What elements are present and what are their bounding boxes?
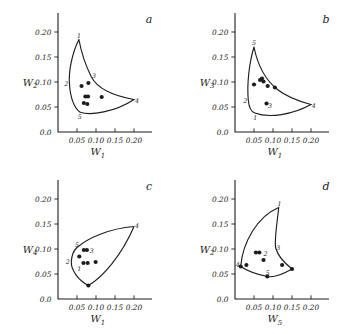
data-point <box>244 263 248 267</box>
data-point <box>252 82 256 86</box>
y-tick-label: 0.15 <box>212 53 229 62</box>
panel-a-chart: 0.050.100.150.200.050.100.150.200.0W2W1a… <box>0 0 177 167</box>
data-point <box>77 254 81 258</box>
panel-b-chart: 0.050.100.150.200.050.100.150.200.0W3W1b… <box>177 0 354 167</box>
x-tick-label: 0.10 <box>88 303 105 312</box>
x-tick-label: 0.05 <box>69 136 86 145</box>
x-axis-label: W1 <box>91 146 106 160</box>
panel-a: 0.050.100.150.200.050.100.150.200.0W2W1a… <box>0 0 177 167</box>
data-point <box>257 250 261 254</box>
x-axis-label: W1 <box>91 313 106 327</box>
x-tick-label: 0.05 <box>69 303 86 312</box>
vertex-label: 5 <box>78 113 82 120</box>
vertex-label: 2 <box>242 97 247 104</box>
panel-d-chart: 0.050.100.150.200.050.100.150.200.0W2W5d… <box>177 167 354 334</box>
panel-b: 0.050.100.150.200.050.100.150.200.0W3W1b… <box>177 0 354 167</box>
y-tick-label: 0.10 <box>212 245 229 254</box>
boundary-curve <box>248 47 311 115</box>
x-tick-label: 0.20 <box>303 136 320 145</box>
origin-tick-label: 0.0 <box>40 295 52 304</box>
data-point <box>273 85 277 89</box>
vertex-label: 5 <box>266 269 270 276</box>
y-tick-label: 0.15 <box>212 220 229 229</box>
boundary-curve <box>69 40 134 114</box>
vertex-label: 5 <box>75 241 79 248</box>
y-tick-label: 0.10 <box>212 78 229 87</box>
origin-tick-label: 0.0 <box>217 295 229 304</box>
y-tick-label: 0.05 <box>212 270 229 279</box>
data-point <box>261 258 265 262</box>
y-tick-label: 0.15 <box>35 53 52 62</box>
vertex-label: 2 <box>65 258 70 265</box>
data-point <box>86 261 90 265</box>
data-point <box>290 267 294 271</box>
data-point <box>86 81 90 85</box>
panel-letter: a <box>146 13 153 26</box>
origin-tick-label: 0.0 <box>40 128 52 137</box>
x-tick-label: 0.10 <box>265 136 282 145</box>
panel-c: 0.050.100.150.200.050.100.150.200.0W4W1c… <box>0 167 177 334</box>
data-point <box>100 95 104 99</box>
vertex-label: 3 <box>276 244 280 251</box>
vertex-label: 4 <box>134 222 139 229</box>
vertex-label: 3 <box>92 72 96 79</box>
vertex-label: 2 <box>63 80 68 87</box>
data-point <box>81 261 85 265</box>
x-tick-label: 0.15 <box>107 303 124 312</box>
vertex-label: 1 <box>77 32 81 39</box>
y-tick-label: 0.05 <box>35 270 52 279</box>
data-point <box>280 263 284 267</box>
x-tick-label: 0.20 <box>303 303 320 312</box>
vertex-label: 4 <box>235 261 240 268</box>
vertex-label: 1 <box>253 114 257 121</box>
panel-letter: b <box>322 13 329 26</box>
axes <box>58 13 152 132</box>
data-point <box>266 84 270 88</box>
boundary-curve <box>241 208 292 277</box>
vertex-label: 4 <box>311 102 316 109</box>
x-tick-label: 0.15 <box>284 136 301 145</box>
x-tick-label: 0.05 <box>246 303 263 312</box>
y-tick-label: 0.10 <box>35 245 52 254</box>
y-tick-label: 0.20 <box>212 195 229 204</box>
vertex-label: 2 <box>262 250 267 257</box>
panel-letter: c <box>146 180 152 193</box>
vertex-label: 3 <box>268 102 272 109</box>
y-tick-label: 0.05 <box>212 103 229 112</box>
vertex-label: 5 <box>252 39 256 46</box>
vertex-label: 1 <box>277 200 281 207</box>
vertex-label: 1 <box>77 265 81 272</box>
origin-tick-label: 0.0 <box>217 128 229 137</box>
panel-c-chart: 0.050.100.150.200.050.100.150.200.0W4W1c… <box>0 167 177 334</box>
vertex-label: 3 <box>90 247 94 254</box>
x-tick-label: 0.10 <box>265 303 282 312</box>
panel-letter: d <box>322 180 329 193</box>
axes <box>58 180 152 299</box>
data-point <box>261 79 265 83</box>
y-tick-label: 0.20 <box>35 195 52 204</box>
vertex-label: 4 <box>134 97 139 104</box>
x-tick-label: 0.10 <box>88 136 105 145</box>
data-point <box>85 102 89 106</box>
x-axis-label: W1 <box>268 146 283 160</box>
data-point <box>86 94 90 98</box>
y-tick-label: 0.20 <box>212 28 229 37</box>
y-tick-label: 0.10 <box>35 78 52 87</box>
panel-d: 0.050.100.150.200.050.100.150.200.0W2W5d… <box>177 167 354 334</box>
x-tick-label: 0.15 <box>107 136 124 145</box>
data-point <box>79 84 83 88</box>
figure-grid: 0.050.100.150.200.050.100.150.200.0W2W1a… <box>0 0 354 334</box>
x-tick-label: 0.15 <box>284 303 301 312</box>
y-tick-label: 0.05 <box>35 103 52 112</box>
x-axis-label: W5 <box>268 313 283 327</box>
x-tick-label: 0.20 <box>126 136 143 145</box>
axes <box>235 180 329 299</box>
x-tick-label: 0.20 <box>126 303 143 312</box>
data-point <box>86 283 90 287</box>
x-tick-label: 0.05 <box>246 136 263 145</box>
data-point <box>94 260 98 264</box>
data-point <box>85 248 89 252</box>
y-tick-label: 0.15 <box>35 220 52 229</box>
y-tick-label: 0.20 <box>35 28 52 37</box>
